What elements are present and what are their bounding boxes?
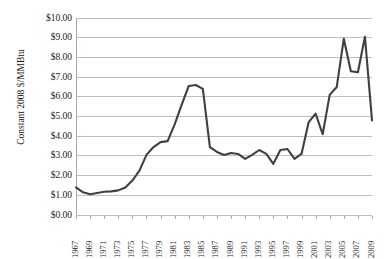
y-tick-label: $2.00: [0, 170, 72, 180]
y-axis-tick-labels: $10.00$9.00$8.00$7.00$6.00$5.00$4.00$3.0…: [0, 0, 72, 232]
x-tick-mark: [245, 216, 246, 219]
x-tick-mark: [146, 216, 147, 219]
x-tick-mark: [358, 216, 359, 219]
x-tick-label: 1989: [226, 241, 235, 258]
x-tick-mark: [90, 216, 91, 219]
y-tick-label: $10.00: [0, 13, 72, 23]
series-line: [76, 18, 372, 215]
x-tick-label: 2003: [324, 241, 333, 258]
x-axis-tick-labels: 1967196919711973197519771979198119831985…: [76, 216, 372, 258]
x-tick-mark: [330, 216, 331, 219]
gas-price-line-chart: Constant 2008 $/MMBtu $10.00$9.00$8.00$7…: [0, 0, 390, 259]
y-tick-label: $7.00: [0, 72, 72, 82]
x-tick-mark: [161, 216, 162, 219]
x-tick-label: 1993: [254, 241, 263, 258]
x-tick-label: 1969: [85, 241, 94, 258]
y-tick-label: $1.00: [0, 190, 72, 200]
x-tick-label: 2009: [367, 241, 376, 258]
x-tick-label: 2005: [338, 241, 347, 258]
x-tick-label: 1971: [99, 241, 108, 258]
x-tick-label: 1997: [282, 241, 291, 258]
y-tick-label: $4.00: [0, 131, 72, 141]
x-tick-label: 1973: [113, 241, 122, 258]
x-tick-label: 1979: [155, 241, 164, 258]
x-tick-label: 1977: [141, 241, 150, 258]
x-tick-mark: [287, 216, 288, 219]
x-tick-label: 1999: [296, 241, 305, 258]
x-tick-label: 1995: [268, 241, 277, 258]
y-tick-label: $9.00: [0, 32, 72, 42]
x-tick-label: 1985: [197, 241, 206, 258]
x-tick-label: 1967: [71, 241, 80, 258]
x-tick-mark: [273, 216, 274, 219]
plot-area: [76, 18, 372, 215]
y-tick-label: $0.00: [0, 210, 72, 220]
x-tick-mark: [231, 216, 232, 219]
y-tick-label: $3.00: [0, 150, 72, 160]
x-tick-mark: [372, 216, 373, 219]
x-tick-label: 1987: [211, 241, 220, 258]
x-tick-label: 1983: [183, 241, 192, 258]
x-tick-label: 1975: [127, 241, 136, 258]
x-tick-label: 1991: [240, 241, 249, 258]
x-tick-mark: [132, 216, 133, 219]
x-tick-mark: [104, 216, 105, 219]
y-tick-label: $6.00: [0, 91, 72, 101]
y-tick-label: $5.00: [0, 111, 72, 121]
x-tick-mark: [316, 216, 317, 219]
x-tick-mark: [76, 216, 77, 219]
x-tick-label: 1981: [169, 241, 178, 258]
x-tick-mark: [189, 216, 190, 219]
x-tick-mark: [175, 216, 176, 219]
x-tick-mark: [344, 216, 345, 219]
x-tick-mark: [203, 216, 204, 219]
y-tick-label: $8.00: [0, 52, 72, 62]
x-tick-mark: [259, 216, 260, 219]
x-tick-label: 2001: [310, 241, 319, 258]
x-tick-label: 2007: [352, 241, 361, 258]
x-tick-mark: [302, 216, 303, 219]
x-tick-mark: [118, 216, 119, 219]
x-tick-mark: [217, 216, 218, 219]
